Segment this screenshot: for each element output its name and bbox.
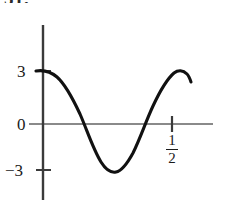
x-axis-label-half: 1 2 xyxy=(163,133,181,167)
y-axis-label-3: 3 xyxy=(17,63,26,80)
y-axis-label-neg3: −3 xyxy=(5,162,23,179)
figure-root: 51. 3 0 −3 1 2 xyxy=(0,0,230,206)
y-axis-label-0: 0 xyxy=(17,116,26,133)
fraction-numerator: 1 xyxy=(163,133,181,148)
fraction-denominator: 2 xyxy=(163,151,181,166)
plot-canvas xyxy=(0,0,230,206)
